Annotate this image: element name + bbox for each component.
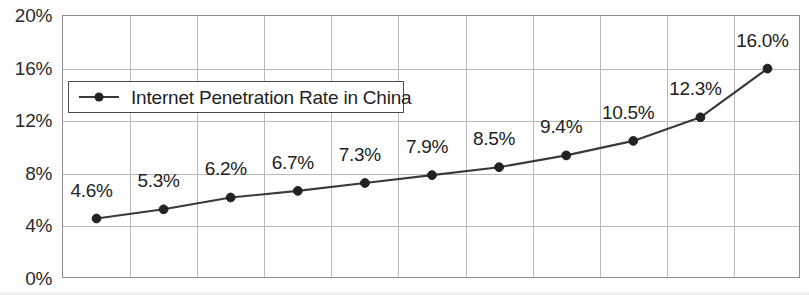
chart-legend: Internet Penetration Rate in China	[68, 81, 404, 113]
data-point-label: 10.5%	[602, 103, 654, 122]
data-point-label: 16.0%	[736, 31, 788, 50]
y-axis-tick-label: 0%	[0, 269, 52, 288]
data-point-label: 6.7%	[272, 153, 314, 172]
data-point-marker	[495, 163, 504, 172]
data-point-marker	[696, 113, 705, 122]
data-point-marker	[428, 171, 437, 180]
legend-line-marker-icon	[79, 90, 119, 104]
y-axis-tick-label: 4%	[0, 216, 52, 235]
data-point-marker	[763, 64, 772, 73]
y-axis-tick-label: 12%	[0, 111, 52, 130]
data-point-label: 8.5%	[473, 129, 515, 148]
scan-edge	[0, 291, 809, 295]
data-point-marker	[361, 179, 370, 188]
data-point-label: 5.3%	[138, 171, 180, 190]
legend-item-label: Internet Penetration Rate in China	[131, 88, 412, 107]
data-point-label: 9.4%	[540, 117, 582, 136]
data-point-marker	[159, 205, 168, 214]
y-axis-tick-label: 20%	[0, 6, 52, 25]
data-point-label: 7.3%	[339, 145, 381, 164]
data-point-marker	[629, 137, 638, 146]
data-point-label: 6.2%	[205, 159, 247, 178]
y-axis-tick-label: 16%	[0, 58, 52, 77]
data-point-label: 7.9%	[406, 137, 448, 156]
chart-container: 0%4%8%12%16%20% 4.6%5.3%6.2%6.7%7.3%7.9%…	[0, 0, 809, 295]
y-axis: 0%4%8%12%16%20%	[0, 0, 56, 295]
data-point-label: 4.6%	[70, 181, 112, 200]
data-point-marker	[92, 214, 101, 223]
data-point-marker	[226, 193, 235, 202]
data-point-marker	[293, 187, 302, 196]
y-axis-tick-label: 8%	[0, 163, 52, 182]
data-point-label: 12.3%	[669, 79, 721, 98]
data-point-marker	[562, 151, 571, 160]
